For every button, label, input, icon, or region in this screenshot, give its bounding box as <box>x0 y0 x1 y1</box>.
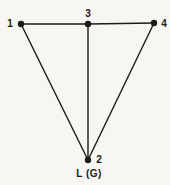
edge-4-2 <box>88 23 154 160</box>
edge-3-4 <box>88 23 154 24</box>
vertex-label-3: 3 <box>85 8 91 19</box>
vertex-label-1: 1 <box>7 18 13 29</box>
vertex-3 <box>85 21 91 27</box>
vertex-label-4: 4 <box>161 18 167 29</box>
graph-canvas: 1342 <box>0 0 170 185</box>
edge-1-2 <box>21 24 88 160</box>
vertex-1 <box>18 21 24 27</box>
vertex-2 <box>85 157 91 163</box>
vertex-4 <box>151 20 157 26</box>
figure-caption: L (G) <box>0 168 170 179</box>
line-graph-figure: 1342 L (G) <box>0 0 170 185</box>
vertex-label-2: 2 <box>96 154 102 165</box>
